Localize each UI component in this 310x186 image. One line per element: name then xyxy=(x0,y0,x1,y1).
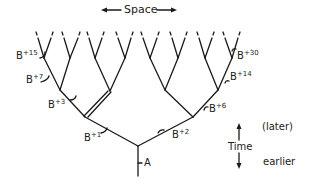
branch-label-b2: B+2 xyxy=(172,130,189,140)
tree-level-3 xyxy=(44,58,232,91)
earlier-label: earlier xyxy=(263,157,295,167)
later-label: (later) xyxy=(262,122,293,132)
branch-label-b6: B+6 xyxy=(209,104,226,114)
branch-label-b14: B+14 xyxy=(230,72,252,82)
tree-level-2 xyxy=(60,90,218,117)
space-label: Space xyxy=(124,5,158,15)
root-label: A xyxy=(144,158,151,168)
branch-label-b15: B+15 xyxy=(16,51,38,61)
root-stem xyxy=(138,146,142,176)
branch-label-b30: B+30 xyxy=(237,51,259,61)
branch-label-b3: B+3 xyxy=(48,100,65,110)
branch-label-b7: B+7 xyxy=(26,75,43,85)
leaf-tips xyxy=(36,32,240,35)
tree-level-4 xyxy=(38,38,238,58)
time-label: Time xyxy=(228,142,252,152)
branch-label-b1: B+1 xyxy=(84,133,101,143)
